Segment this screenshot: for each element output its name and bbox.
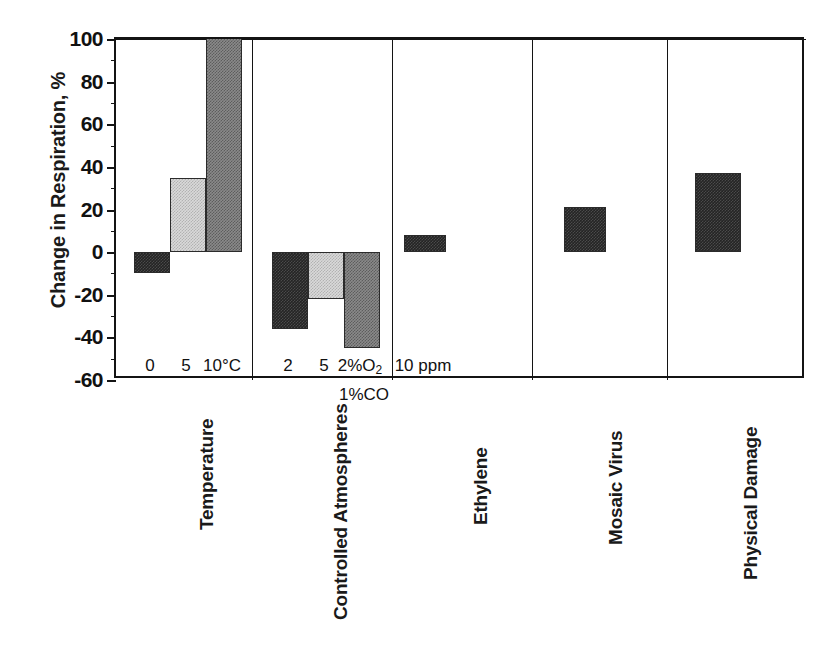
y-tick-label: -20 [74,283,103,307]
y-tick-label: 100 [69,27,103,51]
y-tick-label: 0 [92,240,103,264]
panel-label-controlled-atmospheres: Controlled Atmospheres [330,403,352,620]
y-tick-minor [111,273,116,274]
panel-divider [252,39,253,380]
bar [695,173,741,252]
x-tick-label: 10°C [203,356,241,376]
y-tick-major [107,39,116,41]
y-tick-major [107,252,116,254]
x-tick-label: 5 [181,356,190,376]
y-tick-minor [111,188,116,189]
y-tick-minor [111,316,116,317]
bar [170,178,206,253]
y-tick-minor [111,60,116,61]
panel-label-ethylene: Ethylene [470,447,492,525]
y-tick-label: -60 [74,368,103,392]
bar [272,252,308,329]
y-tick-label: 60 [81,112,103,136]
bar [206,39,242,252]
bar [564,207,606,252]
panel-divider [532,39,533,380]
x-tick-label: 10 ppm [395,356,452,376]
plot-area: 100806040200-20-40-60 [114,37,804,378]
y-tick-major [107,82,116,84]
y-tick-major [107,210,116,212]
x-tick-label: 5 [319,356,328,376]
y-tick-minor [111,231,116,232]
bar [404,235,446,252]
panel-divider [392,39,393,380]
y-tick-minor [111,103,116,104]
y-tick-major [107,380,116,382]
y-tick-major [107,167,116,169]
y-tick-label: -40 [74,325,103,349]
x-tick-label: 0 [145,356,154,376]
y-tick-major [107,295,116,297]
y-tick-major [107,124,116,126]
bar [344,252,380,348]
y-tick-label: 80 [81,70,103,94]
bar [134,252,170,273]
panel-label-temperature: Temperature [196,419,218,531]
panel-divider [667,39,668,380]
y-tick-major [107,337,116,339]
y-tick-label: 40 [81,155,103,179]
bar [308,252,344,299]
y-tick-minor [111,359,116,360]
y-tick-minor [111,146,116,147]
x-tick-label: 2 [283,356,292,376]
x-tick-sublabel: 1%CO [339,385,389,405]
panel-label-mosaic-virus: Mosaic Virus [605,431,627,545]
x-tick-label: 2%O2 [338,356,382,377]
y-axis-title: Change in Respiration, % [38,20,78,360]
panel-label-physical-damage: Physical Damage [740,427,762,580]
y-tick-label: 20 [81,198,103,222]
chart-figure: Change in Respiration, % 100806040200-20… [0,0,828,671]
